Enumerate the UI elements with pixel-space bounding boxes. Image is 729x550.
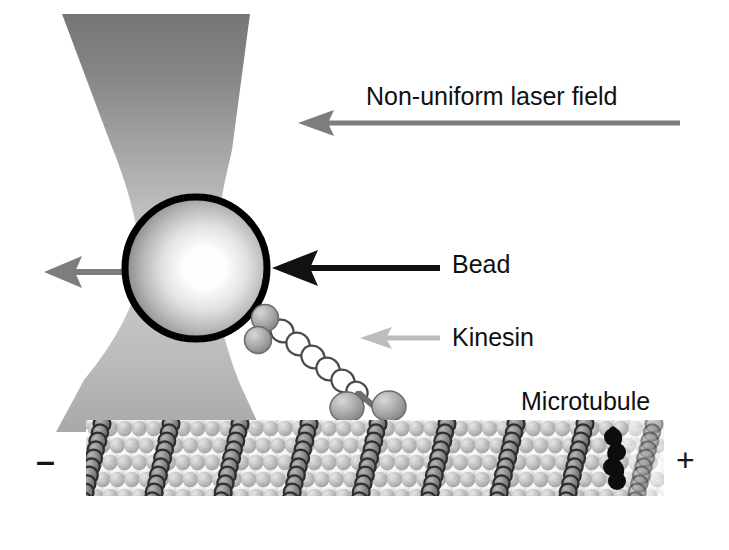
protofilament-subunit <box>420 492 436 508</box>
tubulin-subunit <box>548 496 566 514</box>
tubulin-subunit <box>204 455 220 471</box>
tubulin-subunit <box>117 489 133 505</box>
tubulin-subunit <box>307 489 323 505</box>
tubulin-subunit <box>518 472 534 488</box>
tubulin-subunit <box>197 472 213 488</box>
tubulin-subunit <box>314 438 330 454</box>
tubulin-subunit <box>124 472 140 488</box>
tubulin-subunit <box>81 496 99 514</box>
figure-canvas: Non-uniform laser field Bead Kinesin Mic… <box>0 0 729 550</box>
tubulin-subunit <box>540 489 556 505</box>
tubulin-subunit <box>139 438 155 454</box>
minus-end-label: – <box>36 443 55 477</box>
tubulin-subunit <box>511 489 527 505</box>
tubulin-subunit <box>321 421 337 437</box>
tubulin-subunit <box>131 455 147 471</box>
tubulin-subunit <box>526 421 542 437</box>
tubulin-subunit <box>547 472 563 488</box>
tubulin-subunit <box>628 421 644 437</box>
protofilament-subunit <box>351 492 367 508</box>
kinesin-motor-head <box>330 392 364 422</box>
tubulin-subunit <box>255 472 271 488</box>
tubulin-subunit <box>314 496 332 514</box>
tubulin-subunit <box>489 496 507 514</box>
tubulin-subunit <box>438 489 454 505</box>
tubulin-subunit <box>270 438 286 454</box>
tubulin-subunit <box>124 438 140 454</box>
tubulin-subunit <box>599 489 615 505</box>
protofilament-subunit <box>77 484 94 501</box>
tubulin-subunit <box>591 438 607 454</box>
microtubule-label: Microtubule <box>521 389 650 414</box>
kinesin-motor-head <box>372 391 406 421</box>
tubulin-subunit <box>387 438 403 454</box>
tubulin-subunit <box>373 496 391 514</box>
diagram-svg <box>0 0 729 550</box>
tubulin-subunit <box>416 438 432 454</box>
kinesin-motor-protein <box>245 305 407 423</box>
tubulin-subunit <box>255 438 271 454</box>
kinesin-label-arrow <box>360 327 440 349</box>
tubulin-subunit <box>474 472 490 488</box>
tubulin-subunit <box>146 421 162 437</box>
tubulin-subunit <box>533 472 549 488</box>
microtubule-lattice <box>73 411 675 514</box>
tubulin-subunit <box>562 496 580 514</box>
tubulin-subunit <box>453 489 469 505</box>
protofilament-subunit <box>627 492 643 508</box>
tubulin-subunit <box>401 472 417 488</box>
tubulin-subunit <box>270 496 288 514</box>
tubulin-subunit <box>175 455 191 471</box>
tubulin-subunit <box>190 489 206 505</box>
tubulin-subunit <box>131 421 147 437</box>
protofilament-subunit <box>75 492 91 508</box>
protofilament-subunit <box>144 492 160 508</box>
tubulin-subunit <box>212 496 230 514</box>
tubulin-subunit <box>102 489 118 505</box>
tubulin-subunit <box>314 472 330 488</box>
tubulin-subunit <box>117 455 133 471</box>
tubulin-subunit <box>482 421 498 437</box>
tubulin-subunit <box>394 489 410 505</box>
tubulin-subunit <box>547 438 563 454</box>
tubulin-subunit <box>95 496 113 514</box>
tubulin-subunit <box>555 421 571 437</box>
tubulin-subunit <box>445 472 461 488</box>
tubulin-subunit <box>263 489 279 505</box>
tubulin-subunit <box>519 496 537 514</box>
protofilament-subunit <box>282 492 298 508</box>
tubulin-subunit <box>467 455 483 471</box>
tubulin-subunit <box>124 496 142 514</box>
tubulin-subunit <box>263 455 279 471</box>
tubulin-subunit <box>241 472 257 488</box>
tubulin-subunit <box>446 496 464 514</box>
tubulin-subunit <box>139 496 157 514</box>
tubulin-subunit <box>460 496 478 514</box>
tubulin-subunit <box>328 438 344 454</box>
kinesin-cargo-domain <box>245 327 272 354</box>
tubulin-subunit <box>183 496 201 514</box>
tubulin-subunit <box>380 489 396 505</box>
tubulin-subunit <box>606 496 624 514</box>
tubulin-subunit <box>533 438 549 454</box>
tubulin-subunit <box>343 438 359 454</box>
tubulin-subunit <box>329 496 347 514</box>
tubulin-subunit <box>102 455 118 471</box>
tubulin-subunit <box>482 455 498 471</box>
tubulin-subunit <box>336 489 352 505</box>
tubulin-subunit <box>402 496 420 514</box>
tubulin-subunit <box>300 496 318 514</box>
tubulin-subunit <box>321 455 337 471</box>
tubulin-subunit <box>182 472 198 488</box>
tubulin-subunit <box>197 438 213 454</box>
tubulin-subunit <box>285 496 303 514</box>
tubulin-subunit <box>621 496 639 514</box>
tubulin-subunit <box>591 472 607 488</box>
tubulin-subunit <box>336 421 352 437</box>
tubulin-subunit <box>131 489 147 505</box>
tubulin-subunit <box>387 496 405 514</box>
tubulin-subunit <box>336 455 352 471</box>
tubulin-subunit <box>110 496 128 514</box>
tubulin-subunit <box>533 496 551 514</box>
tubulin-subunit <box>204 421 220 437</box>
